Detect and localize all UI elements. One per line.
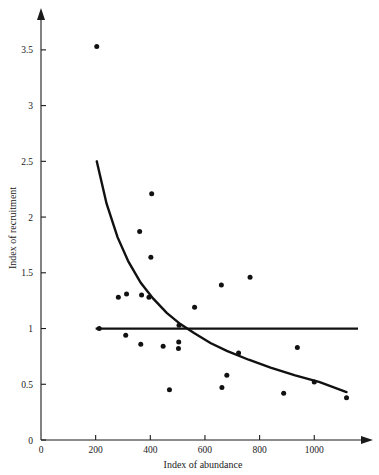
data-point <box>248 275 253 280</box>
data-point <box>123 333 128 338</box>
data-point <box>137 229 142 234</box>
data-point <box>192 305 197 310</box>
data-point <box>236 351 241 356</box>
y-tick-label: 0.5 <box>21 380 33 390</box>
y-tick-label: 1.5 <box>21 268 33 278</box>
y-axis-arrow-icon <box>37 8 45 20</box>
x-tick-label: 600 <box>198 445 213 455</box>
x-axis-arrow-icon <box>361 436 373 444</box>
x-axis-title: Index of abundance <box>164 459 243 470</box>
data-point <box>167 387 172 392</box>
data-point <box>295 345 300 350</box>
data-point <box>219 283 224 288</box>
data-point <box>177 323 182 328</box>
axes-group <box>37 8 373 444</box>
x-tick-label: 200 <box>89 445 104 455</box>
y-tick-label: 1 <box>28 324 33 334</box>
y-tick-label: 2.5 <box>21 157 33 167</box>
data-point <box>139 293 144 298</box>
data-point <box>149 191 154 196</box>
data-point <box>219 385 224 390</box>
fitted-decay-curve <box>97 161 347 392</box>
y-axis-ticks: 00.511.522.533.5 <box>21 45 46 445</box>
data-points-group <box>94 44 349 400</box>
y-tick-label: 0 <box>28 436 33 446</box>
data-point <box>281 391 286 396</box>
y-tick-label: 3 <box>28 101 33 111</box>
x-tick-label: 400 <box>143 445 158 455</box>
data-point <box>344 395 349 400</box>
data-point <box>146 295 151 300</box>
x-axis-ticks: 02004006008001000 <box>39 435 324 455</box>
y-axis-title: Index of recruitment <box>7 187 18 269</box>
data-point <box>97 326 102 331</box>
y-tick-label: 2 <box>28 213 33 223</box>
data-point <box>138 342 143 347</box>
y-tick-label: 3.5 <box>21 45 33 55</box>
x-tick-label: 1000 <box>305 445 324 455</box>
data-point <box>124 291 129 296</box>
data-point <box>116 295 121 300</box>
x-tick-label: 0 <box>39 445 44 455</box>
data-point <box>94 44 99 49</box>
data-point <box>161 344 166 349</box>
data-point <box>176 339 181 344</box>
x-tick-label: 800 <box>252 445 267 455</box>
data-point <box>176 346 181 351</box>
scatter-plot-canvas: 00.511.522.533.5 02004006008001000 Index… <box>0 0 379 475</box>
chart-figure: 00.511.522.533.5 02004006008001000 Index… <box>0 0 379 475</box>
data-point <box>148 255 153 260</box>
data-point <box>224 373 229 378</box>
data-point <box>312 380 317 385</box>
